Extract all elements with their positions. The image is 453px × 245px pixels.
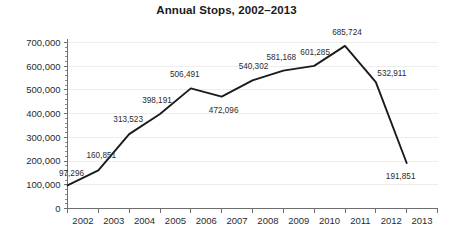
y-axis-tick-label: 300,000 (26, 132, 60, 143)
data-point-label: 506,491 (170, 70, 200, 79)
x-axis-tick-label: 2004 (134, 215, 155, 226)
data-point-label: 97,296 (59, 169, 84, 178)
data-point-label: 601,285 (300, 48, 330, 57)
data-point-label: 581,168 (267, 53, 297, 62)
x-axis-tick-label: 2008 (257, 215, 278, 226)
x-axis-tick-label: 2012 (381, 215, 402, 226)
data-point-label: 313,523 (113, 115, 143, 124)
y-axis-tick-label: 100,000 (26, 179, 60, 190)
line-chart-plot: 0100,000200,000300,000400,000500,000600,… (0, 0, 453, 245)
y-axis-ticks (64, 43, 68, 209)
x-axis-ticks (68, 209, 438, 213)
data-point-label: 191,851 (386, 172, 416, 181)
x-axis-tick-label: 2005 (165, 215, 186, 226)
chart-container: Annual Stops, 2002–2013 0100,000200,0003… (0, 0, 453, 245)
y-axis-tick-label: 0 (55, 203, 60, 214)
x-axis-tick-label: 2003 (103, 215, 124, 226)
x-axis-tick-label: 2013 (412, 215, 433, 226)
x-axis-tick-label: 2006 (196, 215, 217, 226)
y-axis-tick-labels: 0100,000200,000300,000400,000500,000600,… (26, 37, 60, 214)
data-point-label: 472,096 (209, 106, 239, 115)
x-axis-tick-label: 2009 (288, 215, 309, 226)
y-axis-tick-label: 200,000 (26, 155, 60, 166)
data-point-label: 398,191 (142, 96, 172, 105)
data-point-label: 160,851 (87, 151, 117, 160)
data-point-labels: 97,296160,851313,523398,191506,491472,09… (59, 28, 416, 181)
y-axis-tick-label: 400,000 (26, 108, 60, 119)
x-axis-tick-label: 2011 (350, 215, 370, 226)
y-axis-tick-label: 600,000 (26, 61, 60, 72)
data-point-label: 532,911 (377, 69, 406, 78)
data-point-label: 685,724 (332, 28, 362, 37)
y-axis-tick-label: 500,000 (26, 84, 60, 95)
x-axis-tick-label: 2002 (72, 215, 93, 226)
x-axis-tick-label: 2010 (319, 215, 340, 226)
data-point-label: 540,302 (239, 62, 269, 71)
x-axis-tick-labels: 2002200320042005200620072008200920102011… (72, 215, 432, 226)
x-axis-tick-label: 2007 (227, 215, 248, 226)
y-axis-tick-label: 700,000 (26, 37, 60, 48)
